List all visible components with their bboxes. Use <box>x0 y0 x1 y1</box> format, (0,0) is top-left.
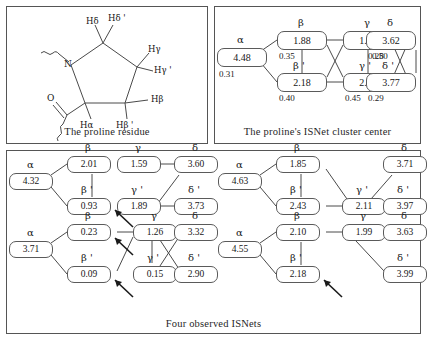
label-h-delta: Hδ <box>86 16 99 26</box>
label-h-alpha: Hα <box>80 120 93 130</box>
cluster-node-beta-prime-sub: 0.40 <box>279 93 295 103</box>
isnet3-node-gamma-prime-label: γ ' <box>356 184 368 195</box>
cluster-node-delta-prime-label: δ ' <box>382 60 394 71</box>
cluster-node-alpha-value: 4.48 <box>217 48 267 67</box>
isnet2-node-beta-value: 0.23 <box>67 224 111 241</box>
isnet2-node-beta-prime-value: 0.09 <box>67 266 111 283</box>
isnet1-node-gamma-value: 1.59 <box>117 156 161 173</box>
isnet2-node-alpha-value: 3.71 <box>9 241 53 258</box>
annotation-arrow-4 <box>320 277 344 299</box>
label-h-gamma: Hγ <box>148 44 161 54</box>
label-h-beta: Hβ <box>151 94 163 104</box>
isnet1-node-gamma-label: γ <box>135 142 141 153</box>
observed-isnets-edges <box>7 151 422 335</box>
isnet4-node-beta-prime-label: β ' <box>290 252 302 263</box>
isnet4-node-beta-label: β <box>294 210 300 221</box>
cluster-node-beta-prime-label: β ' <box>293 60 305 71</box>
isnet1-node-delta-prime-label: δ ' <box>188 184 200 195</box>
isnet4-node-gamma-label: γ <box>360 210 366 221</box>
isnet3-node-delta-label: δ <box>401 142 407 153</box>
isnet4-node-gamma-value: 1.99 <box>342 224 386 241</box>
annotation-arrow-1 <box>111 207 135 229</box>
cluster-node-beta-label: β <box>298 17 304 28</box>
isnet3-node-alpha-label: α <box>236 159 243 170</box>
isnet2-node-gamma-prime-label: γ ' <box>147 252 159 263</box>
isnet2-node-delta-value: 3.32 <box>174 224 218 241</box>
proline-skeleton <box>7 7 209 145</box>
cluster-node-alpha-sub: 0.31 <box>219 69 235 79</box>
panel-four-observed-isnets: 4.32 α 2.01 β 0.93 β ' 1.59 γ 1.89 γ ' 3… <box>6 150 421 334</box>
cluster-node-gamma-prime-sub: 0.45 <box>345 93 361 103</box>
isnet3-node-delta-value: 3.71 <box>383 156 427 173</box>
isnet2-node-delta-label: δ <box>192 210 198 221</box>
isnet2-node-delta-prime-label: δ ' <box>188 252 200 263</box>
atom-oxygen: O <box>47 93 54 103</box>
isnet3-node-alpha-value: 4.63 <box>218 173 262 190</box>
isnet3-node-beta-label: β <box>294 142 300 153</box>
isnet2-node-beta-label: β <box>85 210 91 221</box>
cluster-node-delta-value: 3.62 <box>366 31 416 50</box>
isnet2-node-gamma-value: 1.26 <box>133 224 177 241</box>
caption-four-observed-isnets: Four observed ISNets <box>7 318 420 329</box>
isnet4-node-beta-prime-value: 2.18 <box>276 266 320 283</box>
isnet1-node-gamma-prime-label: γ ' <box>131 184 143 195</box>
figure-root: N O Hδ Hδ ' Hγ Hγ ' Hβ Hβ ' Hα The proli… <box>0 0 427 340</box>
isnet3-node-beta-prime-label: β ' <box>290 184 302 195</box>
cluster-node-delta-label: δ <box>387 17 393 28</box>
isnet1-node-alpha-label: α <box>27 159 34 170</box>
isnet4-node-alpha-label: α <box>236 227 243 238</box>
isnet2-node-beta-prime-label: β ' <box>81 252 93 263</box>
isnet2-node-gamma-label: γ <box>151 210 157 221</box>
isnet4-node-delta-prime-label: δ ' <box>397 252 409 263</box>
cluster-node-delta-prime-sub: 0.29 <box>368 93 384 103</box>
label-h-delta-prime: Hδ ' <box>108 13 126 23</box>
isnet4-node-beta-value: 2.10 <box>276 224 320 241</box>
isnet1-node-beta-prime-label: β ' <box>81 184 93 195</box>
cluster-node-beta-prime-value: 2.18 <box>277 73 327 92</box>
isnet1-node-beta-label: β <box>85 142 91 153</box>
cluster-node-gamma-label: γ <box>364 17 370 28</box>
cluster-node-alpha-label: α <box>237 34 244 45</box>
isnet2-node-gamma-prime-value: 0.15 <box>133 266 177 283</box>
label-h-beta-prime: Hβ ' <box>116 120 133 130</box>
panel-proline-residue: N O Hδ Hδ ' Hγ Hγ ' Hβ Hβ ' Hα The proli… <box>6 6 208 144</box>
isnet1-node-alpha-value: 4.32 <box>9 173 53 190</box>
panel-isnet-cluster-center: 4.48 α 0.31 1.88 β 0.35 2.18 β ' 0.40 1.… <box>214 6 421 144</box>
caption-proline-residue: The proline residue <box>7 126 207 137</box>
annotation-arrow-3 <box>111 277 135 299</box>
cluster-node-beta-value: 1.88 <box>277 31 327 50</box>
isnet1-node-delta-label: δ <box>192 142 198 153</box>
isnet1-node-beta-value: 2.01 <box>67 156 111 173</box>
isnet4-node-alpha-value: 4.55 <box>218 241 262 258</box>
isnet4-node-delta-prime-value: 3.99 <box>383 266 427 283</box>
isnet4-node-delta-value: 3.63 <box>383 224 427 241</box>
isnet4-node-delta-label: δ <box>401 210 407 221</box>
cluster-node-gamma-prime-label: γ ' <box>359 60 371 71</box>
label-h-gamma-prime: Hγ ' <box>154 65 172 75</box>
isnet2-node-delta-prime-value: 2.90 <box>174 266 218 283</box>
annotation-arrow-2 <box>111 235 135 257</box>
isnet1-node-delta-value: 3.60 <box>174 156 218 173</box>
isnet3-node-delta-prime-label: δ ' <box>397 184 409 195</box>
isnet2-node-alpha-label: α <box>27 227 34 238</box>
atom-nitrogen: N <box>64 59 72 69</box>
caption-cluster-center: The proline's ISNet cluster center <box>215 126 420 137</box>
isnet3-node-beta-value: 1.85 <box>276 156 320 173</box>
cluster-node-delta-prime-value: 3.77 <box>366 73 416 92</box>
